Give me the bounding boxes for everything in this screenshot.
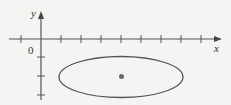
y-axis-label: y: [30, 7, 36, 19]
y-axis-arrow-icon: [38, 11, 44, 19]
diagram-canvas: y x 0: [0, 0, 231, 105]
origin-label: 0: [28, 44, 34, 56]
x-axis-label: x: [213, 42, 219, 54]
ellipse-center-point: [119, 74, 124, 79]
